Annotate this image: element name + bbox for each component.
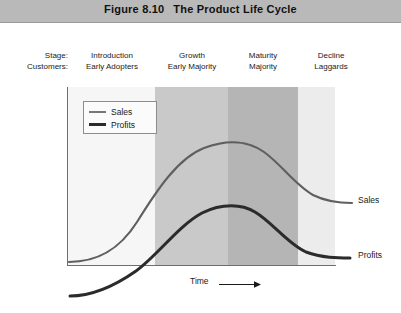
y-axis-line xyxy=(67,87,68,266)
stage-band-decline xyxy=(298,87,335,265)
legend-item-sales: Sales xyxy=(89,105,156,118)
customer-segment-majority: Majority xyxy=(228,61,298,72)
row-label-group: Stage: Customers: xyxy=(6,50,68,72)
legend-item-profits: Profits xyxy=(89,118,156,131)
legend-swatch-sales xyxy=(89,111,106,113)
stage-header-group: Introduction Early Adopters Growth Early… xyxy=(68,50,335,74)
x-axis-line xyxy=(67,265,336,266)
legend-label-profits: Profits xyxy=(111,120,135,130)
customer-segment-early-majority: Early Majority xyxy=(156,61,228,72)
stage-name-introduction: Introduction xyxy=(68,50,156,61)
stage-column-growth: Growth Early Majority xyxy=(156,50,228,72)
stage-column-maturity: Maturity Majority xyxy=(228,50,298,72)
x-axis-label: Time xyxy=(190,276,209,286)
legend-label-sales: Sales xyxy=(111,107,132,117)
chart-legend: Sales Profits xyxy=(83,101,157,134)
curve-end-label-sales: Sales xyxy=(358,195,379,205)
figure-title: The Product Life Cycle xyxy=(173,3,297,15)
stage-column-introduction: Introduction Early Adopters xyxy=(68,50,156,72)
row-label-customers: Customers: xyxy=(6,61,68,72)
row-label-stage: Stage: xyxy=(6,50,68,61)
customer-segment-laggards: Laggards xyxy=(298,61,364,72)
page-title: Figure 8.10The Product Life Cycle xyxy=(0,3,401,15)
figure-number: Figure 8.10 xyxy=(104,3,164,15)
curve-end-label-profits: Profits xyxy=(358,250,382,260)
right-arrow-icon xyxy=(219,281,261,287)
customer-segment-early-adopters: Early Adopters xyxy=(68,61,156,72)
stage-band-growth xyxy=(155,87,228,265)
stage-column-decline: Decline Laggards xyxy=(298,50,364,72)
stage-name-decline: Decline xyxy=(298,50,364,61)
legend-swatch-profits xyxy=(89,123,106,126)
stage-name-maturity: Maturity xyxy=(228,50,298,61)
stage-band-maturity xyxy=(228,87,298,265)
stage-name-growth: Growth xyxy=(156,50,228,61)
